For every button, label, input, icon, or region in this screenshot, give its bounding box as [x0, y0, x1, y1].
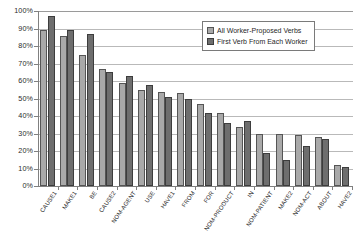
bar-group [77, 11, 97, 186]
bar-group [156, 11, 176, 186]
bar-group [136, 11, 156, 186]
legend-label: All Worker-Proposed Verbs [217, 27, 301, 35]
y-axis-tick-label: 0% [22, 182, 33, 190]
y-axis-tick-label: 50% [18, 95, 33, 103]
bar [177, 93, 184, 186]
bar [263, 153, 270, 186]
bar [283, 160, 290, 186]
bar-group [332, 11, 352, 186]
x-axis-tick-label: BE [88, 190, 98, 201]
legend-item-first-verb-from-each-worker: First Verb From Each Worker [207, 36, 308, 47]
bar [48, 16, 55, 186]
bar [67, 30, 74, 186]
bar [244, 121, 251, 186]
x-axis-tick-mark [136, 186, 137, 190]
bar [334, 165, 341, 186]
bar-group [97, 11, 117, 186]
bar-chart: 100%90%80%70%60%50%40%30%20%10%0% CAUSE1… [0, 0, 363, 245]
bar [217, 113, 224, 187]
bar [158, 92, 165, 187]
bar-group [175, 11, 195, 186]
x-axis-tick-label: FROM [180, 190, 196, 209]
x-axis-tick-mark [274, 186, 275, 190]
x-axis: CAUSE1MAKE1BECAUSE2NOM-AGENTUSEHAVE1FROM… [0, 190, 363, 245]
bar [126, 76, 133, 186]
y-axis-tick-label: 30% [18, 130, 33, 138]
bar [322, 139, 329, 186]
bar [60, 36, 67, 187]
x-axis-tick-label: HAVE2 [336, 190, 353, 210]
bar [165, 97, 172, 186]
x-axis-tick-mark [332, 186, 333, 190]
legend-label: First Verb From Each Worker [217, 38, 308, 46]
bar [106, 72, 113, 186]
bar [185, 99, 192, 187]
x-axis-tick-mark [175, 186, 176, 190]
bar-group [313, 11, 333, 186]
bar [87, 34, 94, 186]
x-axis-tick-mark [293, 186, 294, 190]
bar [224, 123, 231, 186]
legend-swatch-icon [207, 38, 214, 45]
x-axis-tick-mark [58, 186, 59, 190]
x-axis-tick-mark [117, 186, 118, 190]
x-axis-tick-label: ABOUT [316, 190, 334, 211]
x-axis-tick-label: IN [246, 190, 255, 199]
x-axis-tick-label: CAUSE2 [98, 190, 118, 214]
legend-swatch-icon [207, 27, 214, 34]
x-axis-tick-mark [215, 186, 216, 190]
x-axis-tick-label: NOM-ACT [292, 190, 314, 218]
x-axis-tick-label: MAKE2 [277, 190, 295, 211]
chart-legend: All Worker-Proposed Verbs First Verb Fro… [202, 21, 315, 51]
bar [197, 104, 204, 186]
legend-item-all-worker-proposed-verbs: All Worker-Proposed Verbs [207, 25, 308, 36]
bar-group [58, 11, 78, 186]
x-axis-tick-label: USE [144, 190, 157, 204]
bar [303, 146, 310, 186]
x-axis-tick-mark [77, 186, 78, 190]
bar [138, 90, 145, 186]
bar [119, 83, 126, 186]
y-axis-tick-label: 20% [18, 147, 33, 155]
x-axis-tick-mark [97, 186, 98, 190]
bar [205, 113, 212, 187]
y-axis-tick-label: 60% [18, 77, 33, 85]
x-axis-tick-mark [254, 186, 255, 190]
x-axis-tick-mark [195, 186, 196, 190]
x-axis-tick-mark [234, 186, 235, 190]
bar [276, 134, 283, 187]
bar [295, 135, 302, 186]
bar [79, 55, 86, 186]
x-axis-tick-mark [352, 186, 353, 190]
x-axis-tick-label: CAUSE1 [39, 190, 59, 214]
y-axis-tick-label: 90% [18, 25, 33, 33]
x-axis-tick-mark [313, 186, 314, 190]
bar-group [38, 11, 58, 186]
bar [342, 167, 349, 186]
y-axis-tick-label: 80% [18, 42, 33, 50]
x-axis-tick-label: HAVE1 [160, 190, 177, 210]
bar [315, 137, 322, 186]
y-axis-tick-label: 40% [18, 112, 33, 120]
y-axis: 100%90%80%70%60%50%40%30%20%10%0% [0, 0, 38, 197]
bar-group [117, 11, 137, 186]
y-axis-tick-label: 70% [18, 60, 33, 68]
bar [99, 69, 106, 186]
y-axis-tick-label: 10% [18, 165, 33, 173]
bar [236, 127, 243, 187]
x-axis-tick-mark [156, 186, 157, 190]
bar [146, 85, 153, 187]
y-axis-tick-label: 100% [14, 7, 33, 15]
x-axis-tick-label: MAKE1 [61, 190, 79, 211]
bar [40, 30, 47, 186]
bar [256, 134, 263, 187]
x-axis-tick-label: FOR [203, 190, 216, 205]
